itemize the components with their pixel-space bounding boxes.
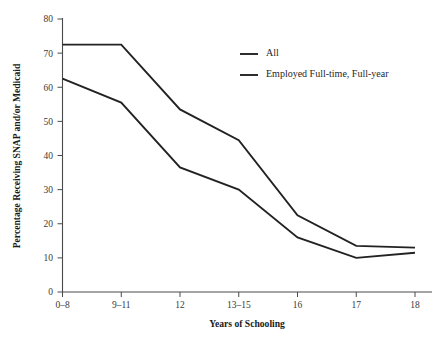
legend-label-1: All (266, 47, 279, 58)
line-chart: Percentage Receiving SNAP and/or Medicai… (0, 0, 447, 342)
x-tick-label: 13–15 (227, 300, 251, 310)
y-tick-label: 50 (44, 117, 54, 127)
x-tick-label: 17 (352, 300, 362, 310)
y-tick-label: 40 (44, 151, 54, 161)
y-tick-label: 0 (48, 287, 53, 297)
y-tick-label: 60 (44, 83, 54, 93)
y-tick-label: 20 (44, 219, 54, 229)
x-tick-group: 0–89–111213–15161718 (55, 292, 420, 310)
x-tick-label: 12 (175, 300, 185, 310)
legend-label-2: Employed Full-time, Full-year (266, 68, 389, 79)
x-tick-label: 0–8 (55, 300, 70, 310)
y-tick-label: 10 (44, 253, 54, 263)
figure-container: Percentage Receiving SNAP and/or Medicai… (0, 0, 447, 342)
y-axis-title: Percentage Receiving SNAP and/or Medicai… (11, 63, 22, 248)
x-axis-title: Years of Schooling (209, 318, 285, 329)
chart-legend: AllEmployed Full-time, Full-year (240, 47, 389, 79)
series-line-2 (63, 79, 416, 258)
figure-caption (0, 333, 447, 342)
y-tick-label: 80 (44, 14, 54, 24)
y-tick-group: 01020304050607080 (44, 14, 63, 297)
y-tick-label: 30 (44, 185, 54, 195)
x-tick-label: 9–11 (112, 300, 131, 310)
x-tick-label: 16 (293, 300, 303, 310)
x-tick-label: 18 (410, 300, 420, 310)
y-tick-label: 70 (44, 49, 54, 59)
